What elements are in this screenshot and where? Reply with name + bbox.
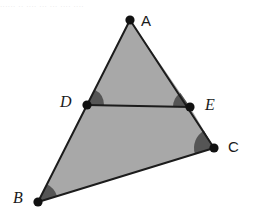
vertex-dot-c	[209, 143, 218, 152]
vertex-label-a: A	[141, 13, 151, 28]
vertex-label-e: E	[205, 97, 215, 112]
geometry-figure-screenshot: ...... .. .... ... ... .... .... A B C D…	[0, 0, 253, 221]
quadrilateral-dbce	[38, 105, 214, 202]
vertex-label-c: C	[228, 139, 239, 154]
vertex-dot-d	[82, 100, 91, 109]
vertex-dot-e	[185, 102, 194, 111]
triangle-diagram	[0, 0, 253, 221]
vertex-label-d: D	[60, 94, 72, 109]
vertex-dot-a	[125, 15, 134, 24]
vertex-dot-b	[33, 197, 42, 206]
vertex-label-b: B	[13, 190, 23, 205]
